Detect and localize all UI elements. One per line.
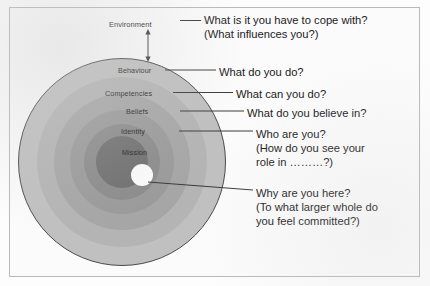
ring-label-beliefs: Beliefs [126,107,148,116]
ring-label-competencies: Competencies [105,89,152,98]
question-behaviour: What do you do? [219,65,304,79]
question-beliefs: What do you believe in? [247,106,366,120]
question-mission: Why are you here? (To what larger whole … [256,186,378,228]
question-identity: Who are you? (How do you see your role i… [256,127,365,169]
ring-label-behaviour: Behaviour [118,66,151,75]
ring-core-center [131,164,153,186]
ring-label-identity: Identity [121,127,145,136]
question-environment: What is it you have to cope with? (What … [204,13,368,41]
ring-label-environment: Environment [109,20,152,29]
ring-label-mission: Mission [122,148,147,157]
question-competencies: What can you do? [236,87,326,101]
diagram-canvas: Environment Behaviour Competencies Belie… [0,0,430,286]
